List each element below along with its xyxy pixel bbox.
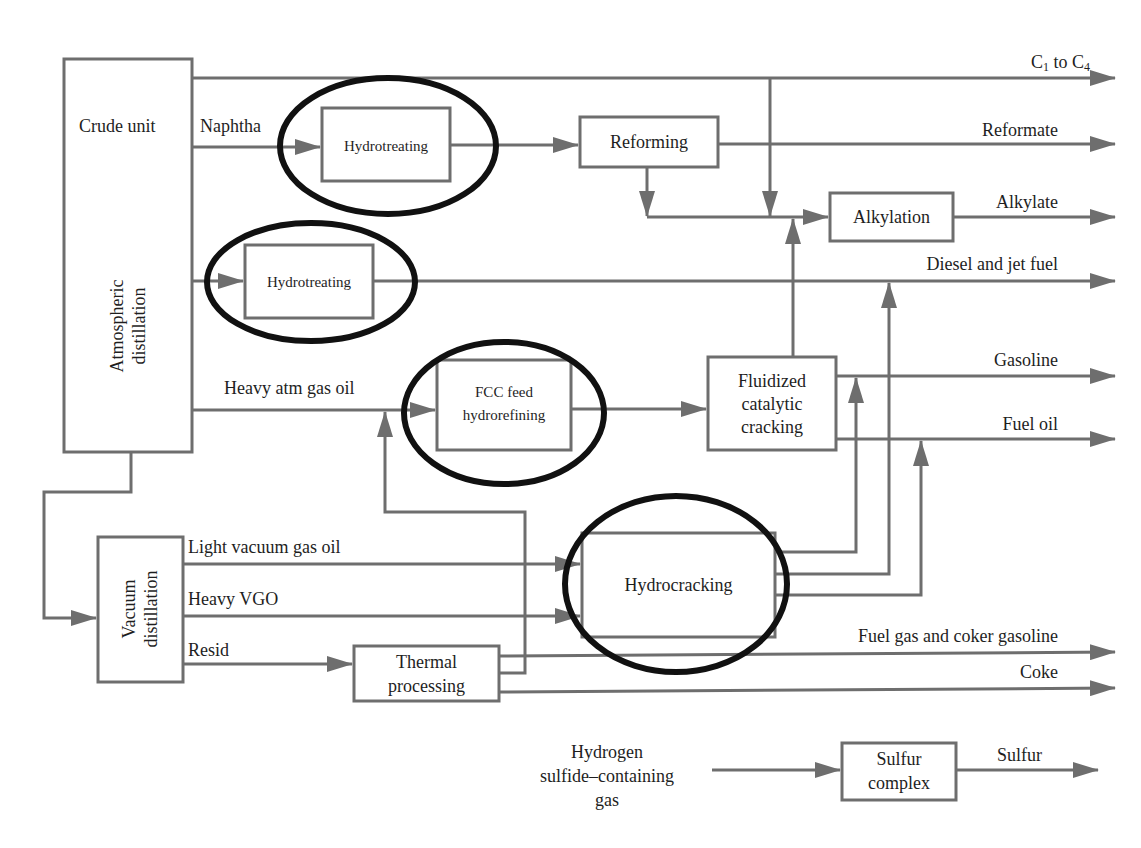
sulfur-complex-label: Sulfur complex bbox=[842, 747, 956, 795]
fcc-label: Fluidized catalytic cracking bbox=[708, 370, 836, 439]
naphtha-label: Naphtha bbox=[200, 116, 261, 137]
light-vgo-label: Light vacuum gas oil bbox=[188, 537, 340, 558]
diesel-jet-fuel-label: Diesel and jet fuel bbox=[850, 254, 1058, 275]
fuel-oil-label: Fuel oil bbox=[900, 414, 1058, 435]
hydrotreating-naphtha-label: Hydrotreating bbox=[322, 136, 450, 157]
vacuum-distillation-label: Vacuum distillation bbox=[118, 544, 162, 674]
h2s-gas-label: Hydrogen sulfide–containing gas bbox=[532, 740, 682, 812]
reforming-label: Reforming bbox=[580, 132, 718, 153]
c1-to-c4-label: C1 to C4 bbox=[980, 52, 1090, 78]
gasoline-label: Gasoline bbox=[900, 350, 1058, 371]
atmospheric-distillation-label: Atmospheric distillation bbox=[106, 246, 150, 406]
heavy-atm-gas-oil-label: Heavy atm gas oil bbox=[224, 378, 354, 399]
hydrotreating-distillate-label: Hydrotreating bbox=[245, 272, 373, 293]
alkylate-label: Alkylate bbox=[900, 192, 1058, 213]
fuel-gas-coker-gasoline-label: Fuel gas and coker gasoline bbox=[780, 626, 1058, 647]
thermal-processing-label: Thermal processing bbox=[354, 650, 499, 698]
fcc-feed-hydrorefining-label: FCC feed hydrorefining bbox=[437, 381, 571, 427]
reformate-label: Reformate bbox=[900, 120, 1058, 141]
crude-unit-label: Crude unit bbox=[79, 116, 156, 137]
hydrocracking-label: Hydrocracking bbox=[582, 575, 775, 596]
coke-label: Coke bbox=[900, 662, 1058, 683]
heavy-vgo-label: Heavy VGO bbox=[188, 589, 278, 610]
resid-label: Resid bbox=[188, 640, 229, 661]
sulfur-product-label: Sulfur bbox=[960, 745, 1042, 766]
